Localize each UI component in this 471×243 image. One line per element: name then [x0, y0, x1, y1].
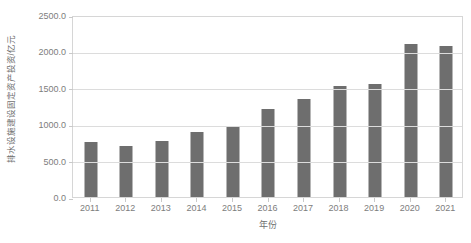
- x-tick-label-2017: 2017: [293, 204, 313, 213]
- bar-slot: [393, 17, 429, 197]
- bar-slot: [109, 17, 145, 197]
- y-tick-label: 2500.0: [38, 12, 66, 21]
- x-tick-label-2013: 2013: [151, 204, 171, 213]
- y-tick-mark: [69, 53, 73, 54]
- y-tick-mark: [69, 89, 73, 90]
- bar-2012[interactable]: [120, 146, 133, 197]
- x-axis-title: 年份: [72, 221, 463, 230]
- bar-slot: [215, 17, 251, 197]
- bars-layer: [73, 17, 462, 197]
- y-tick-label: 1500.0: [38, 84, 66, 93]
- y-tick-mark: [69, 17, 73, 18]
- y-tick-mark: [69, 162, 73, 163]
- y-axis-title: 排水设施建设固定资产投资/亿元: [4, 0, 18, 198]
- x-tick-mark: [445, 198, 446, 202]
- bar-2017[interactable]: [298, 99, 311, 197]
- x-tick-label-2019: 2019: [364, 204, 384, 213]
- bar-2020[interactable]: [404, 44, 417, 197]
- bar-slot: [322, 17, 358, 197]
- bar-2014[interactable]: [191, 132, 204, 197]
- x-tick-mark: [161, 198, 162, 202]
- bar-slot: [357, 17, 393, 197]
- bar-slot: [286, 17, 322, 197]
- x-tick-mark: [232, 198, 233, 202]
- x-tick-label-2021: 2021: [435, 204, 455, 213]
- gridline: [73, 126, 462, 127]
- bar-2016[interactable]: [262, 109, 275, 197]
- y-tick-label: 0.0: [53, 194, 66, 203]
- bar-2021[interactable]: [440, 46, 453, 197]
- x-tick-label-2011: 2011: [80, 204, 99, 213]
- y-axis-title-text: 排水设施建设固定资产投资/亿元: [7, 35, 16, 163]
- y-tick-label: 500.0: [43, 157, 66, 166]
- bar-slot: [73, 17, 109, 197]
- bar-2013[interactable]: [155, 141, 168, 197]
- x-tick-label-2016: 2016: [257, 204, 277, 213]
- bar-slot: [428, 17, 464, 197]
- gridline: [73, 89, 462, 90]
- bar-2011[interactable]: [84, 142, 97, 197]
- x-tick-mark: [410, 198, 411, 202]
- x-axis-tick-labels: 2011201220132014201520162017201820192020…: [72, 198, 463, 222]
- bar-slot: [144, 17, 180, 197]
- x-tick-label-2020: 2020: [400, 204, 420, 213]
- gridline: [73, 162, 462, 163]
- bar-slot: [251, 17, 287, 197]
- x-tick-mark: [125, 198, 126, 202]
- y-axis-tick-labels: 0.0500.01000.01500.02000.02500.0: [18, 16, 70, 198]
- bar-2018[interactable]: [333, 86, 346, 197]
- x-tick-label-2015: 2015: [222, 204, 242, 213]
- x-tick-mark: [339, 198, 340, 202]
- x-tick-mark: [374, 198, 375, 202]
- x-tick-mark: [303, 198, 304, 202]
- x-tick-mark: [196, 198, 197, 202]
- y-tick-label: 1000.0: [38, 121, 66, 130]
- x-tick-label-2018: 2018: [329, 204, 349, 213]
- bar-slot: [180, 17, 216, 197]
- x-tick-label-2014: 2014: [186, 204, 206, 213]
- x-tick-mark: [90, 198, 91, 202]
- gridline: [73, 53, 462, 54]
- y-tick-mark: [69, 126, 73, 127]
- x-tick-label-2012: 2012: [115, 204, 135, 213]
- x-tick-mark: [268, 198, 269, 202]
- y-tick-label: 2000.0: [38, 48, 66, 57]
- bar-2019[interactable]: [369, 84, 382, 197]
- bar-chart: 排水设施建设固定资产投资/亿元 0.0500.01000.01500.02000…: [0, 0, 471, 243]
- plot-area: [72, 16, 463, 198]
